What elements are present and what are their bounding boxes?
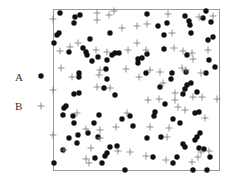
data-point-a <box>96 112 101 117</box>
data-point-a <box>207 154 212 159</box>
data-point-a <box>116 50 121 55</box>
data-point-b <box>96 72 103 79</box>
data-point-b <box>166 125 173 132</box>
data-point-b <box>107 85 114 92</box>
data-point-b <box>134 23 141 30</box>
legend-label-a: A <box>15 72 23 83</box>
data-point-b <box>58 65 65 72</box>
data-point-b <box>145 97 152 104</box>
data-point-a <box>51 40 56 45</box>
data-point-a <box>192 137 197 142</box>
data-point-b <box>210 13 217 20</box>
data-point-b <box>125 47 132 54</box>
data-point-a <box>61 105 66 110</box>
data-point-a <box>144 51 149 56</box>
data-point-b <box>86 160 93 167</box>
plot-frame <box>54 10 220 171</box>
data-point-a <box>57 10 62 15</box>
data-point-a <box>162 101 167 106</box>
data-point-b <box>50 87 57 94</box>
data-point-b <box>172 90 179 97</box>
series-a-points <box>51 8 217 172</box>
data-point-b <box>111 8 118 15</box>
data-point-b <box>115 148 122 155</box>
data-point-a <box>70 113 75 118</box>
data-point-b <box>147 124 154 131</box>
data-point-a <box>161 46 166 51</box>
data-point-b <box>156 96 163 103</box>
data-point-a <box>158 134 163 139</box>
data-point-b <box>94 84 101 91</box>
data-point-a <box>60 112 65 117</box>
legend-markers <box>38 73 45 109</box>
data-point-b <box>57 48 64 55</box>
data-point-a <box>192 110 197 115</box>
data-point-a <box>139 55 144 60</box>
data-point-a <box>155 23 160 28</box>
data-point-a <box>206 57 211 62</box>
data-point-a <box>151 113 156 118</box>
data-point-b <box>119 25 126 32</box>
data-point-a <box>157 84 162 89</box>
legend-marker-b-icon <box>38 103 45 110</box>
data-point-a <box>150 154 155 159</box>
data-point-a <box>75 132 80 137</box>
data-point-b <box>94 17 101 24</box>
data-point-b <box>144 21 151 28</box>
data-point-a <box>182 86 187 91</box>
data-point-a <box>200 15 205 20</box>
data-point-a <box>182 13 187 18</box>
data-point-b <box>195 154 202 161</box>
data-point-a <box>104 76 109 81</box>
data-point-b <box>75 40 82 47</box>
data-point-b <box>67 44 74 51</box>
data-point-b <box>93 47 100 54</box>
data-point-b <box>190 94 197 101</box>
data-point-b <box>198 70 205 77</box>
data-point-a <box>104 57 109 62</box>
data-point-a <box>74 140 79 145</box>
data-point-a <box>66 135 71 140</box>
data-point-b <box>163 157 170 164</box>
data-point-a <box>170 116 175 121</box>
data-point-a <box>177 120 182 125</box>
data-point-a <box>190 167 195 172</box>
data-point-a <box>71 20 76 25</box>
data-point-a <box>164 20 169 25</box>
data-point-b <box>190 56 197 63</box>
data-point-a <box>168 76 173 81</box>
data-point-b <box>50 132 57 139</box>
data-point-a <box>127 113 132 118</box>
data-point-a <box>107 144 112 149</box>
data-point-a <box>169 70 174 75</box>
data-point-a <box>77 12 82 17</box>
data-point-a <box>71 91 76 96</box>
data-point-a <box>135 60 140 65</box>
data-point-b <box>182 107 189 114</box>
data-point-a <box>203 8 208 13</box>
data-point-b <box>169 30 176 37</box>
data-point-a <box>210 34 215 39</box>
data-point-a <box>51 160 56 165</box>
data-point-b <box>106 12 113 19</box>
data-point-b <box>88 145 95 152</box>
data-point-a <box>89 58 94 63</box>
data-point-a <box>103 66 108 71</box>
data-point-a <box>112 92 117 97</box>
legend-marker-a-icon <box>38 73 43 78</box>
data-point-b <box>205 47 212 54</box>
data-point-b <box>134 40 141 47</box>
data-point-a <box>76 90 81 95</box>
data-point-a <box>87 36 92 41</box>
data-point-b <box>69 74 76 81</box>
data-point-a <box>99 160 104 165</box>
data-point-b <box>94 10 101 17</box>
data-point-a <box>208 19 213 24</box>
data-point-a <box>194 89 199 94</box>
data-point-b <box>189 159 196 166</box>
data-point-b <box>175 104 182 111</box>
data-point-a <box>143 70 148 75</box>
data-point-b <box>172 97 179 104</box>
data-point-a <box>180 91 185 96</box>
data-point-a <box>182 144 187 149</box>
